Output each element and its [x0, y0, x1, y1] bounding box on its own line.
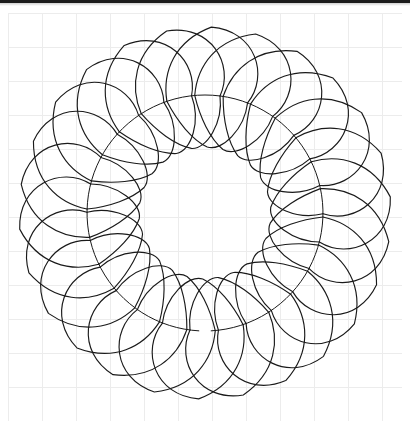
caption-strip [0, 424, 410, 431]
inner-plume-24 [141, 96, 220, 148]
outer-plume-24 [135, 30, 224, 114]
outer-plume-10 [218, 294, 305, 385]
outer-plume-3 [275, 99, 369, 186]
caption-text [14, 424, 19, 429]
inner-plume-11 [190, 278, 269, 330]
outer-plume-2 [251, 73, 349, 159]
inner-plume-21 [91, 115, 158, 182]
inner-plume-13 [137, 274, 215, 330]
inner-plume-4 [267, 138, 323, 216]
outer-plume-7 [293, 217, 377, 315]
inner-plume-17 [87, 211, 143, 289]
inner-plume-0 [195, 95, 273, 151]
outer-plume-8 [271, 245, 357, 344]
inner-plume-19 [90, 157, 142, 237]
outer-plume-11 [186, 312, 275, 396]
inner-plume-8 [252, 244, 319, 311]
outer-plume-9 [246, 271, 333, 367]
inner-plume-6 [269, 189, 321, 269]
outer-plume-16 [41, 240, 135, 327]
feather-spine-group [87, 95, 323, 331]
outer-plume-group [20, 27, 391, 399]
outer-plume-22 [77, 58, 164, 154]
outer-plume-20 [33, 111, 117, 209]
outer-plume-21 [53, 82, 139, 181]
inner-plume-7 [263, 217, 323, 292]
inner-plume-9 [236, 262, 308, 324]
inner-plume-10 [215, 272, 291, 330]
inner-plume-23 [119, 96, 195, 154]
outer-plume-15 [62, 267, 160, 353]
outer-plume-23 [105, 41, 192, 132]
outer-plume-13 [119, 310, 215, 392]
inner-plume-22 [102, 102, 174, 164]
inner-plume-20 [87, 134, 147, 209]
graph-paper-sheet [8, 13, 402, 421]
outer-plume-0 [195, 34, 291, 116]
feather-spine-circle [87, 95, 323, 331]
inner-plume-group [87, 95, 323, 330]
scan-edge-shadow [0, 3, 410, 6]
feathered-wreath-drawing [8, 13, 402, 421]
scanned-page [0, 0, 410, 431]
